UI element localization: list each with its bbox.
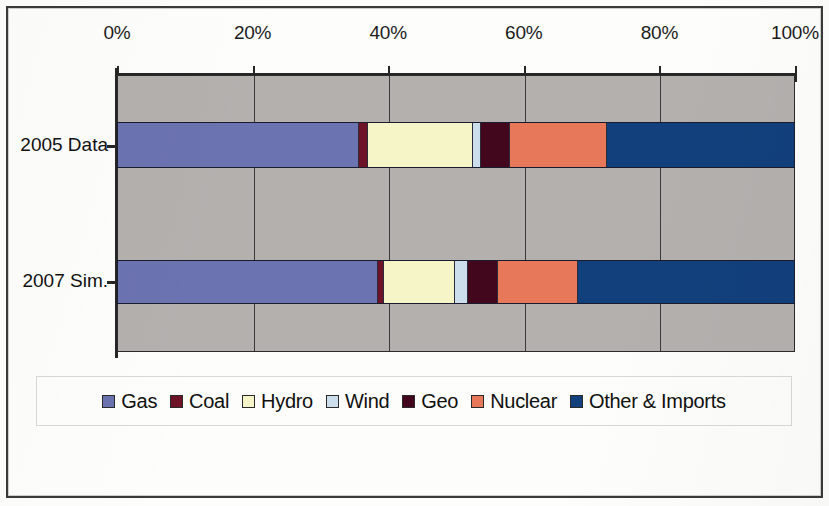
legend-item-label: Coal: [189, 390, 229, 413]
bar-segment-other-imports: [578, 261, 794, 303]
y-axis-tick-mark: [107, 281, 116, 284]
bar-segment-gas: [118, 123, 359, 167]
chart: 0%20%40%60%80%100% 2005 Data2007 Sim. Ga…: [0, 0, 829, 506]
legend-swatch-nuclear: [471, 395, 484, 408]
legend-item-label: Nuclear: [490, 390, 557, 413]
legend-item-label: Geo: [421, 390, 458, 413]
x-axis-tick-label: 20%: [234, 22, 271, 44]
legend-swatch-other-imports: [570, 395, 583, 408]
bar-segment-nuclear: [498, 261, 578, 303]
legend-item-label: Hydro: [261, 390, 313, 413]
x-axis-tick-mark: [659, 66, 661, 75]
legend-swatch-gas: [102, 395, 115, 408]
plot-area: [117, 75, 795, 352]
bar-segment-other-imports: [607, 123, 794, 167]
bar-segment-wind: [473, 123, 481, 167]
legend-swatch-geo: [402, 395, 415, 408]
legend-item[interactable]: Nuclear: [471, 390, 557, 413]
x-axis-tick-labels: 0%20%40%60%80%100%: [0, 22, 829, 50]
x-axis-tick-label: 40%: [369, 22, 406, 44]
legend-item[interactable]: Coal: [170, 390, 229, 413]
y-axis-tick-mark: [107, 145, 116, 148]
legend-swatch-wind: [326, 395, 339, 408]
x-axis-tick-label: 60%: [505, 22, 542, 44]
gridline: [254, 76, 255, 351]
x-axis-tick-mark: [795, 66, 797, 82]
bar-segment-gas: [118, 261, 378, 303]
legend-item[interactable]: Gas: [102, 390, 157, 413]
stacked-bar: [117, 260, 795, 304]
y-axis-category-label: 2007 Sim.: [22, 270, 108, 292]
legend-item[interactable]: Other & Imports: [570, 390, 726, 413]
screenshot-root: 0%20%40%60%80%100% 2005 Data2007 Sim. Ga…: [0, 0, 829, 506]
legend-swatch-coal: [170, 395, 183, 408]
legend-item[interactable]: Geo: [402, 390, 458, 413]
bar-segment-coal: [359, 123, 368, 167]
bar-segment-geo: [468, 261, 498, 303]
x-axis-tick-mark: [253, 66, 255, 75]
y-axis-category-label: 2005 Data: [20, 134, 108, 156]
legend-item[interactable]: Wind: [326, 390, 389, 413]
x-axis-tick-label: 0%: [103, 22, 130, 44]
legend-item-label: Wind: [345, 390, 389, 413]
chart-legend: GasCoalHydroWindGeoNuclearOther & Import…: [36, 376, 792, 426]
legend-swatch-hydro: [242, 395, 255, 408]
x-axis-tick-mark: [524, 66, 526, 75]
bar-segment-wind: [455, 261, 468, 303]
x-axis-tick-label: 80%: [641, 22, 678, 44]
bar-segment-hydro: [384, 261, 455, 303]
gridline: [525, 76, 526, 351]
bar-segment-geo: [481, 123, 510, 167]
gridline: [660, 76, 661, 351]
bar-segment-nuclear: [510, 123, 607, 167]
x-axis-tick-label: 100%: [771, 22, 819, 44]
x-axis-tick-mark: [388, 66, 390, 75]
legend-item-label: Gas: [121, 390, 157, 413]
legend-item-label: Other & Imports: [589, 390, 726, 413]
stacked-bar: [117, 122, 795, 168]
legend-item[interactable]: Hydro: [242, 390, 313, 413]
bar-segment-hydro: [368, 123, 473, 167]
gridline: [389, 76, 390, 351]
